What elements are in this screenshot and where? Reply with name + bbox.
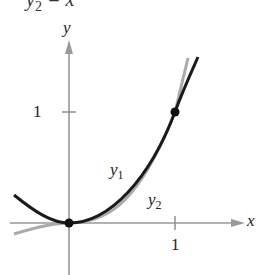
intersection-point-1-1 bbox=[171, 108, 180, 117]
x-axis-label: x bbox=[247, 211, 255, 231]
y-axis-label: y bbox=[63, 18, 71, 38]
intersection-point-origin bbox=[65, 219, 74, 228]
series-label-y2: y2 bbox=[148, 190, 162, 213]
series-label-y1: y1 bbox=[110, 160, 124, 183]
x-tick-label-1: 1 bbox=[171, 235, 180, 255]
series-y1-line bbox=[14, 57, 198, 223]
plot-area bbox=[0, 0, 257, 275]
series-y2-line bbox=[14, 58, 188, 234]
chart-figure: y2 = x y x 1 1 y1 y2 bbox=[0, 0, 257, 275]
y-tick-label-1: 1 bbox=[33, 102, 42, 122]
y-axis-arrow-icon bbox=[65, 40, 73, 54]
x-axis-arrow-icon bbox=[231, 219, 245, 227]
